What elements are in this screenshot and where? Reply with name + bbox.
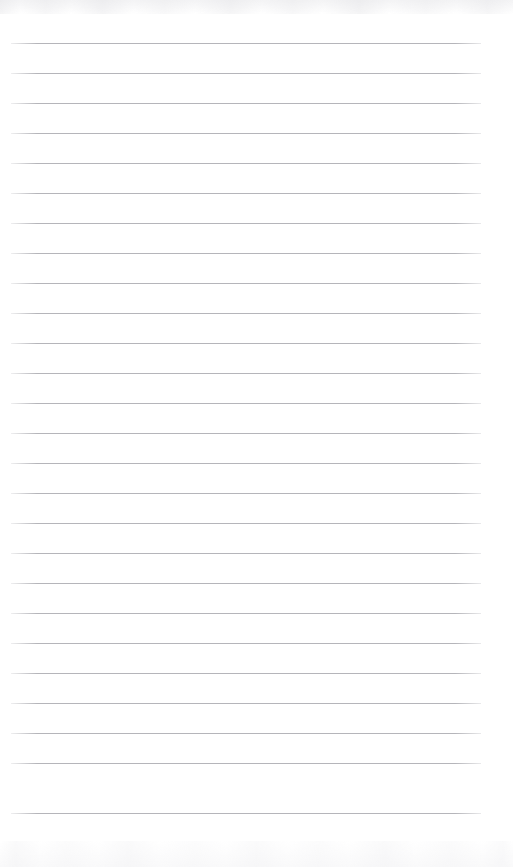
scan-edge-texture-bottom [0, 841, 513, 867]
writing-line[interactable] [11, 224, 481, 253]
writing-line[interactable] [11, 494, 481, 523]
writing-line[interactable] [11, 284, 481, 313]
writing-line[interactable] [11, 344, 481, 373]
rule-line [11, 813, 481, 814]
writing-line[interactable] [11, 704, 481, 733]
writing-line[interactable] [11, 164, 481, 193]
writing-line[interactable] [11, 104, 481, 133]
writing-line[interactable] [11, 464, 481, 493]
writing-line[interactable] [11, 734, 481, 763]
writing-line[interactable] [11, 584, 481, 613]
writing-line[interactable] [11, 194, 481, 223]
writing-line[interactable] [11, 254, 481, 283]
writing-line[interactable] [11, 614, 481, 643]
writing-line[interactable] [11, 314, 481, 343]
notepad-page [0, 0, 513, 867]
writing-line[interactable] [11, 74, 481, 103]
writing-line[interactable] [11, 784, 481, 813]
writing-line[interactable] [11, 524, 481, 553]
writing-line[interactable] [11, 434, 481, 463]
writing-line[interactable] [11, 44, 481, 73]
writing-line[interactable] [11, 674, 481, 703]
scan-edge-texture-top [0, 0, 513, 14]
writing-line[interactable] [11, 404, 481, 433]
writing-line[interactable] [11, 644, 481, 673]
writing-line[interactable] [11, 14, 481, 43]
rule-line [11, 763, 481, 764]
writing-line[interactable] [11, 374, 481, 403]
writing-line[interactable] [11, 134, 481, 163]
writing-line[interactable] [11, 554, 481, 583]
